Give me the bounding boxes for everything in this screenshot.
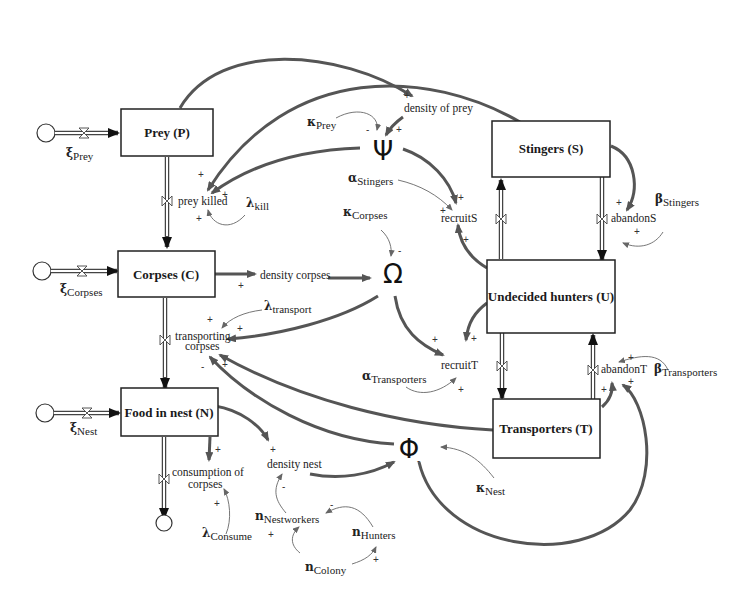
- svg-text:+: +: [373, 554, 379, 565]
- source-cloud-icon: [36, 404, 54, 422]
- param-n-colony: nColony: [305, 560, 347, 576]
- svg-text:+: +: [601, 384, 607, 395]
- param-beta-stingers: βStingers: [655, 192, 699, 208]
- svg-text:nHunters: nHunters: [352, 525, 396, 541]
- svg-text:-: -: [417, 455, 420, 466]
- svg-text:κPrey: κPrey: [307, 115, 337, 131]
- svg-text:-: -: [330, 499, 333, 510]
- svg-text:κCorpses: κCorpses: [343, 205, 387, 221]
- svg-text:+: +: [207, 314, 213, 325]
- stock-label: Food in nest (N): [124, 405, 213, 420]
- flow-prey-killed-label: prey killed: [178, 195, 228, 208]
- source-cloud-icon: [33, 262, 51, 280]
- svg-text:+: +: [463, 234, 469, 245]
- svg-text:-: -: [398, 245, 401, 256]
- flow-recruitT-pipe: [497, 333, 507, 398]
- param-lambda-consume: λConsume: [202, 526, 252, 542]
- flow-abandonS-pipe: [597, 177, 607, 260]
- svg-text:αStingers: αStingers: [348, 171, 393, 187]
- param-n-nestworkers: nNestworkers: [255, 509, 319, 525]
- stock-transporters[interactable]: Transporters (T): [493, 399, 600, 458]
- param-alpha-stingers: αStingers: [348, 171, 393, 187]
- stock-prey[interactable]: Prey (P): [121, 109, 213, 156]
- param-alpha-transporters: αTransporters: [362, 369, 426, 385]
- stock-label: Corpses (C): [133, 267, 199, 282]
- param-xi-nest: ξNest: [70, 421, 97, 437]
- flow-recruitT-label: recruitT: [441, 359, 478, 371]
- flow-transporting-label-2: corpses: [185, 340, 220, 353]
- param-n-hunters: nHunters: [352, 525, 396, 541]
- svg-text:+: +: [222, 189, 228, 200]
- aux-density-corpses: density corpses: [260, 269, 331, 282]
- param-beta-transporters: βTransporters: [654, 362, 717, 378]
- svg-text:-: -: [366, 124, 369, 135]
- param-kappa-corpses: κCorpses: [343, 205, 387, 221]
- param-lambda-kill: λkill: [246, 196, 269, 212]
- stock-label: Transporters (T): [499, 421, 592, 436]
- param-xi-corpses: ξCorpses: [60, 282, 103, 298]
- svg-text:αTransporters: αTransporters: [362, 369, 426, 385]
- stock-corpses[interactable]: Corpses (C): [118, 251, 215, 297]
- param-lambda-transport: λtransport: [264, 299, 312, 315]
- svg-text:+: +: [214, 498, 220, 509]
- sink-cloud-icon: [156, 515, 172, 531]
- stock-label: Stingers (S): [519, 141, 584, 156]
- svg-text:nNestworkers: nNestworkers: [255, 509, 319, 525]
- svg-text:+: +: [196, 213, 202, 224]
- svg-text:+: +: [432, 334, 438, 345]
- svg-text:+: +: [238, 280, 244, 291]
- inflow-corpses: [33, 262, 117, 280]
- svg-text:+: +: [616, 197, 622, 208]
- svg-text:-: -: [282, 481, 285, 492]
- aux-density-of-prey: density of prey: [404, 102, 473, 115]
- svg-text:+: +: [222, 359, 228, 370]
- svg-text:+: +: [458, 384, 464, 395]
- flow-recruitS-pipe: [496, 180, 506, 259]
- svg-text:+: +: [237, 323, 243, 334]
- svg-text:+: +: [628, 352, 634, 363]
- flow-recruitS-label: recruitS: [441, 212, 477, 224]
- param-kappa-prey: κPrey: [307, 115, 337, 131]
- svg-text:+: +: [634, 226, 640, 237]
- svg-text:+: +: [628, 376, 634, 387]
- aux-psi: Ψ: [373, 136, 393, 166]
- flow-consumption-pipe: [156, 437, 172, 531]
- aux-omega: Ω: [383, 259, 403, 289]
- flow-abandonS-label: abandonS: [611, 212, 656, 224]
- svg-text:ξCorpses: ξCorpses: [60, 282, 103, 298]
- param-kappa-nest: κNest: [476, 481, 505, 497]
- source-cloud-icon: [37, 124, 55, 142]
- svg-text:+: +: [458, 192, 464, 203]
- svg-text:βStingers: βStingers: [655, 192, 699, 208]
- flow-prey-killed-pipe: [162, 157, 172, 247]
- inflow-prey: [37, 124, 118, 142]
- flow-abandonT-label: abandonT: [601, 363, 647, 375]
- svg-text:+: +: [440, 205, 446, 216]
- param-xi-prey: ξPrey: [66, 146, 94, 162]
- svg-text:λkill: λkill: [246, 196, 269, 212]
- stock-label: Undecided hunters (U): [488, 289, 614, 304]
- stock-flow-diagram: Prey (P) Corpses (C) Food in nest (N) St…: [0, 0, 739, 604]
- stock-undecided-hunters[interactable]: Undecided hunters (U): [487, 260, 615, 333]
- svg-text:nColony: nColony: [305, 560, 347, 576]
- causal-links-thin: [208, 112, 668, 564]
- svg-text:λtransport: λtransport: [264, 299, 312, 315]
- svg-text:λConsume: λConsume: [202, 526, 252, 542]
- stock-label: Prey (P): [144, 125, 190, 140]
- aux-density-nest: density nest: [267, 458, 322, 471]
- flow-abandonT-pipe: [588, 335, 598, 399]
- stock-food-in-nest[interactable]: Food in nest (N): [121, 388, 218, 436]
- svg-text:+: +: [471, 333, 477, 344]
- svg-text:βTransporters: βTransporters: [654, 362, 717, 378]
- svg-text:κNest: κNest: [476, 481, 505, 497]
- svg-text:+: +: [396, 124, 402, 135]
- svg-text:-: -: [201, 361, 204, 372]
- svg-text:ξNest: ξNest: [70, 421, 97, 437]
- flow-consumption-label-2: corpses: [188, 478, 223, 491]
- svg-text:ξPrey: ξPrey: [66, 146, 94, 162]
- flow-transporting-pipe: [160, 298, 170, 388]
- svg-text:+: +: [198, 169, 204, 180]
- inflow-nest: [36, 404, 119, 422]
- stock-stingers[interactable]: Stingers (S): [492, 121, 610, 177]
- svg-text:+: +: [215, 444, 221, 455]
